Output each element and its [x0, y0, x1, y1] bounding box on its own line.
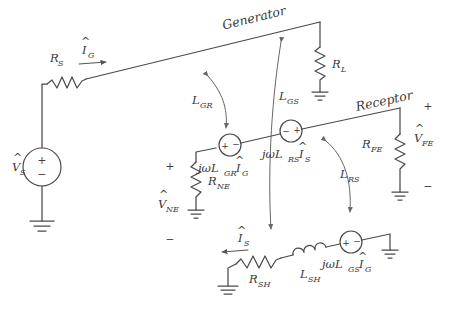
vne-hat: ^ — [159, 188, 168, 201]
generator-line — [86, 22, 320, 79]
lgr-subscript: GR — [200, 101, 212, 110]
vne-subscript: NE — [165, 205, 179, 214]
receptor-line-group — [219, 108, 408, 200]
jwlrs-sub2: S — [305, 155, 311, 164]
rsh-left-wire — [228, 264, 236, 286]
lsh-symbol: L — [299, 267, 308, 281]
vfe-subscript: FE — [421, 139, 434, 148]
ground-rl — [312, 92, 328, 100]
vs-hat: ^ — [13, 151, 22, 164]
current-arrow-ig — [79, 62, 106, 64]
jwlrs-plus-sign: + — [293, 125, 301, 135]
resistor-rfe — [395, 134, 405, 192]
inductor-lsh — [293, 243, 326, 255]
jwlgs-expr: jωL — [319, 257, 343, 271]
lgs-symbol: L — [278, 89, 287, 103]
lgs-label-group: L GS — [278, 89, 299, 106]
receptor-label-group: Receptor — [353, 87, 415, 114]
vne-minus-sign: − — [166, 233, 175, 245]
rl-label-group: R L — [331, 57, 346, 74]
jwlgr-sub1: GR — [224, 169, 236, 178]
lgs-right-wire — [362, 234, 390, 250]
lrs-symbol: L — [339, 167, 348, 181]
rne-subscript: NE — [216, 182, 230, 191]
receptor-line — [302, 108, 400, 129]
jwlgr-expr: jωL — [195, 161, 219, 175]
ground-rsh — [218, 286, 238, 294]
rfe-symbol: R — [361, 137, 371, 151]
ground-lgs — [382, 250, 398, 258]
is-label-group: I ^ S — [237, 224, 250, 248]
jwlrs-is-label-group: jωL RS I ^ S — [259, 140, 311, 164]
lrs-label-group: L RS — [339, 167, 360, 184]
lgr-symbol: L — [191, 93, 200, 107]
ground-rne — [188, 210, 204, 218]
vfe-label-group: V ^ FE + − — [414, 100, 434, 192]
vs-subscript: S — [20, 168, 26, 177]
circuit-diagram: + − + − − + + − Generator Receptor V ^ S… — [0, 0, 450, 321]
rs-subscript: S — [58, 59, 64, 68]
jwlgs-sub2: G — [365, 265, 372, 274]
vs-top-wire — [42, 84, 47, 148]
resistor-rl — [315, 47, 325, 92]
is-subscript: S — [244, 239, 250, 248]
resistor-rsh — [236, 256, 281, 268]
lrs-subscript: RS — [347, 175, 360, 184]
rfe-label-group: R FE — [361, 137, 383, 154]
generator-label: Generator — [221, 3, 288, 33]
receptor-label: Receptor — [353, 87, 415, 114]
is-hat: ^ — [237, 224, 246, 237]
rne-top-wire — [196, 148, 216, 162]
lsh-right-wire — [326, 244, 340, 247]
jwlrs-hat: ^ — [298, 140, 307, 153]
lgs-subscript: GS — [287, 97, 299, 106]
jwlgr-sub2: G — [242, 169, 249, 178]
vfe-hat: ^ — [415, 122, 424, 135]
ig-label-group: I ^ G — [81, 35, 95, 60]
lsh-subscript: SH — [308, 275, 321, 284]
jwlrs-expr: jωL — [259, 147, 283, 161]
lsh-left-wire — [281, 255, 293, 258]
ig-subscript: G — [88, 51, 95, 60]
rs-label-group: R S — [49, 51, 64, 68]
ground-rfe — [392, 192, 408, 200]
vfe-minus-sign: − — [424, 180, 433, 192]
ground-vs — [30, 221, 54, 231]
vne-plus-sign: + — [166, 160, 175, 172]
rsh-subscript: SH — [258, 280, 271, 289]
rl-subscript: L — [340, 65, 346, 74]
jwlgs-ig-label-group: jωL GS I ^ G — [319, 250, 372, 274]
circuit-svg: + − + − − + + − Generator Receptor V ^ S… — [0, 0, 450, 321]
jwlgr-hat: ^ — [235, 154, 244, 167]
rfe-subscript: FE — [370, 145, 383, 154]
lgr-label-group: L GR — [191, 93, 212, 110]
current-arrow-is — [222, 250, 248, 252]
receptor-mid-wire — [241, 134, 280, 143]
jwlgr-plus-sign: + — [221, 141, 229, 151]
ig-hat: ^ — [81, 35, 90, 48]
vne-label-group: V ^ NE + − — [158, 160, 179, 245]
vs-plus-sign: + — [38, 154, 47, 166]
vs-minus-sign: − — [38, 168, 47, 180]
rsh-label-group: R SH — [248, 272, 271, 289]
lsh-label-group: L SH — [299, 267, 321, 284]
vfe-plus-sign: + — [424, 100, 433, 112]
jwlgs-hat: ^ — [358, 250, 367, 263]
rsh-symbol: R — [248, 272, 258, 286]
jwlgr-minus-sign: − — [232, 139, 240, 149]
jwlgs-plus-sign: + — [342, 238, 350, 248]
resistor-rs — [47, 77, 86, 88]
generator-label-group: Generator — [221, 3, 288, 33]
jwlgr-ig-label-group: jωL GR I ^ G — [195, 154, 249, 178]
rne-symbol: R — [207, 174, 217, 188]
jwlrs-minus-sign: − — [282, 126, 290, 136]
rl-symbol: R — [331, 57, 341, 71]
jwlgs-minus-sign: − — [353, 236, 361, 246]
